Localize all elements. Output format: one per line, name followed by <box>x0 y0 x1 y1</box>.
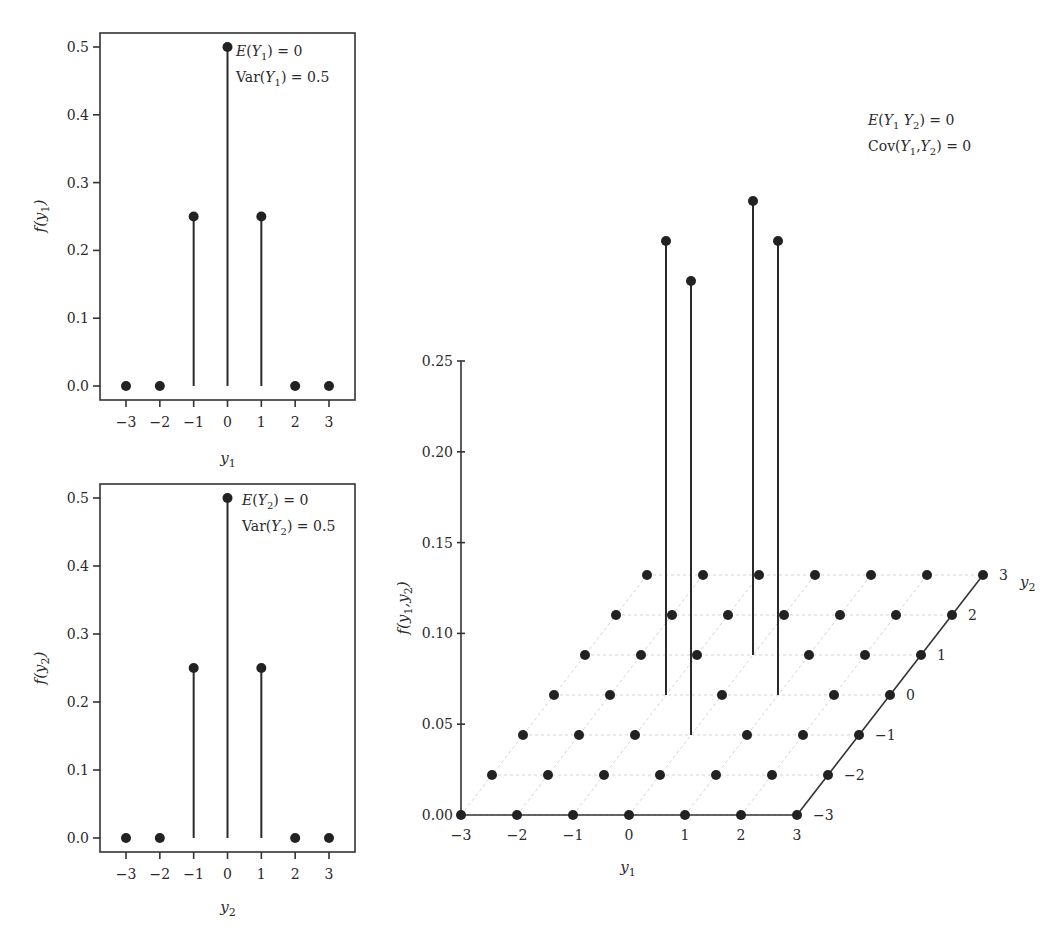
x-tick-label: 0 <box>223 866 232 882</box>
grid-point-marker <box>636 650 646 660</box>
grid-point-marker <box>518 730 528 740</box>
y-tick-label: 0.5 <box>67 490 89 506</box>
y1-tick-label: −2 <box>507 827 528 843</box>
grid-point-marker <box>580 650 590 660</box>
stem-marker <box>256 212 266 222</box>
y2-tick-label: 1 <box>937 647 946 663</box>
y-tick-label: 0.2 <box>67 242 89 258</box>
grid-point-marker <box>692 650 702 660</box>
stem-marker <box>155 833 165 843</box>
x-axis-label: y1 <box>219 449 235 470</box>
grid-point-marker <box>736 810 746 820</box>
marginal-y1-panel: 0.00.10.20.30.40.5 −3−2−10123 y1 f(y1) E… <box>31 33 355 470</box>
z-tick-label: 0.25 <box>422 353 453 369</box>
y1-axis-ticks: −3−2−10123 <box>451 827 802 843</box>
y2-tick-label: 2 <box>968 607 977 623</box>
z-tick-label: 0.00 <box>422 807 453 823</box>
annotation-variance: Var(Y2) = 0.5 <box>241 518 335 537</box>
grid-point-marker <box>866 570 876 580</box>
grid-point-marker <box>717 690 727 700</box>
y2-tick-label: 0 <box>906 687 915 703</box>
grid-point-marker <box>978 570 988 580</box>
grid-point-marker <box>742 730 752 740</box>
y-axis-ticks: 0.00.10.20.30.40.5 <box>67 39 100 394</box>
stem-marker <box>324 833 334 843</box>
y2-tick-label: 3 <box>999 567 1008 583</box>
grid-point-marker <box>630 730 640 740</box>
x-tick-label: 2 <box>291 866 300 882</box>
grid-point-marker <box>947 610 957 620</box>
x-tick-label: −2 <box>150 866 171 882</box>
y1-tick-label: 0 <box>625 827 634 843</box>
grid-point-marker <box>829 690 839 700</box>
grid-point-marker <box>642 570 652 580</box>
joint-distribution-panel: 0.000.050.100.150.200.25 −3−2−10123 −3−2… <box>394 112 1035 879</box>
stem-marker <box>121 381 131 391</box>
grid-point-marker <box>835 610 845 620</box>
z-tick-label: 0.10 <box>422 625 453 641</box>
y2-tick-label: −3 <box>813 807 834 823</box>
grid-point-marker <box>599 770 609 780</box>
y-tick-label: 0.5 <box>67 39 89 55</box>
axes <box>461 361 983 815</box>
stem-marker <box>256 663 266 673</box>
x-tick-label: 1 <box>257 866 266 882</box>
grid-point-marker <box>798 730 808 740</box>
grid-point-marker <box>754 570 764 580</box>
x-axis-ticks: −3−2−10123 <box>116 400 334 430</box>
x-tick-label: 2 <box>291 414 300 430</box>
stem-marker <box>223 493 233 503</box>
grid-point-marker <box>512 810 522 820</box>
stem-marker <box>290 833 300 843</box>
grid-point-marker <box>885 690 895 700</box>
y-axis-label: f(y1) <box>31 199 52 233</box>
stem-marker <box>223 42 233 52</box>
grid-point-marker <box>487 770 497 780</box>
grid-point-marker <box>655 770 665 780</box>
annotation-mean: E(Y1) = 0 <box>235 43 302 62</box>
y-axis-ticks: 0.00.10.20.30.40.5 <box>67 490 100 846</box>
grid-point-marker <box>549 690 559 700</box>
y1-tick-label: −3 <box>451 827 472 843</box>
x-tick-label: −1 <box>183 414 204 430</box>
grid-point-marker <box>767 770 777 780</box>
annotation-expectation-product: E(Y1 Y2) = 0 <box>867 112 954 131</box>
y1-tick-label: −1 <box>563 827 584 843</box>
stem-series <box>121 42 334 391</box>
y1-axis-label: y1 <box>619 858 635 879</box>
grid-point-marker <box>711 770 721 780</box>
grid-point-marker <box>860 650 870 660</box>
y-tick-label: 0.3 <box>67 175 89 191</box>
grid-point-marker <box>605 690 615 700</box>
x-tick-label: −3 <box>116 866 137 882</box>
grid-point-marker <box>543 770 553 780</box>
grid-point-marker <box>624 810 634 820</box>
y-tick-label: 0.2 <box>67 694 89 710</box>
z-axis-label: f(y1,y2) <box>394 581 415 635</box>
z-tick-label: 0.15 <box>422 535 453 551</box>
stem-marker <box>121 833 131 843</box>
y-tick-label: 0.4 <box>67 558 89 574</box>
y-axis-label: f(y2) <box>31 651 52 685</box>
stem-marker <box>189 212 199 222</box>
grid-point-marker <box>611 610 621 620</box>
stem-marker <box>324 381 334 391</box>
x-tick-label: 3 <box>325 414 334 430</box>
y1-tick-label: 2 <box>737 827 746 843</box>
grid-point-marker <box>779 610 789 620</box>
stem-marker <box>748 196 758 206</box>
stem-marker <box>686 276 696 286</box>
grid-point-marker <box>891 610 901 620</box>
y1-tick-label: 3 <box>793 827 802 843</box>
grid-point-marker <box>804 650 814 660</box>
y-tick-label: 0.4 <box>67 107 89 123</box>
grid-point-marker <box>823 770 833 780</box>
x-tick-label: 1 <box>257 414 266 430</box>
z-tick-label: 0.20 <box>422 444 453 460</box>
grid-point-marker <box>854 730 864 740</box>
stem-series <box>121 493 334 843</box>
y-tick-label: 0.1 <box>67 762 89 778</box>
grid-point-marker <box>667 610 677 620</box>
stem-marker <box>773 236 783 246</box>
grid-point-marker <box>680 810 690 820</box>
